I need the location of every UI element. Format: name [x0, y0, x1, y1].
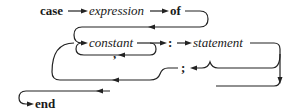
arrow-left-icon: [112, 78, 119, 83]
arrow-right-icon: [81, 9, 88, 14]
arrow-left-icon: [190, 66, 197, 71]
edge-to-end: [19, 91, 110, 104]
arrow-left-icon: [118, 53, 125, 58]
arrow-right-icon: [27, 102, 34, 107]
loop-semicolon: [196, 54, 280, 68]
arrow-right-icon: [162, 9, 169, 14]
case-syntax-diagram: case expression of constant , : statemen…: [0, 0, 296, 108]
arrow-right-icon: [185, 41, 192, 46]
terminal-semicolon: ;: [181, 60, 185, 75]
nonterminal-expression: expression: [89, 3, 144, 18]
arrow-left-icon: [96, 89, 103, 94]
terminal-of: of: [170, 3, 182, 18]
nonterminal-constant: constant: [89, 35, 133, 50]
arrow-right-icon: [81, 41, 88, 46]
arrow-down-icon: [278, 77, 283, 84]
edge-exit-right: [216, 62, 280, 86]
terminal-colon: :: [168, 35, 172, 50]
terminal-end: end: [35, 96, 56, 108]
arrow-right-icon: [160, 41, 167, 46]
terminal-comma: ,: [113, 46, 116, 61]
arrow-left-icon: [148, 25, 155, 30]
nonterminal-statement: statement: [193, 35, 243, 50]
edge-statement-down: [250, 43, 280, 62]
terminal-case: case: [40, 3, 63, 18]
